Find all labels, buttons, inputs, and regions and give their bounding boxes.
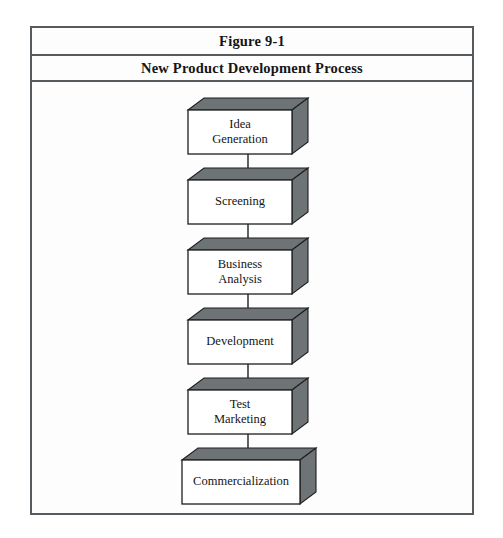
- box-top-face: [188, 378, 308, 390]
- flowchart-canvas: Idea Generation Screening: [32, 82, 472, 513]
- box-front-face: [188, 180, 292, 224]
- box-front-face: [188, 110, 292, 154]
- process-node-idea-generation[interactable]: Idea Generation: [184, 96, 310, 158]
- process-node-business-analysis[interactable]: Business Analysis: [184, 236, 310, 298]
- box-top-face: [188, 308, 308, 320]
- box-top-face: [188, 168, 308, 180]
- process-node-development[interactable]: Development: [184, 306, 310, 368]
- box-top-face: [182, 448, 316, 460]
- figure-subtitle-band: New Product Development Process: [32, 56, 472, 82]
- figure-number-label: Figure 9-1: [219, 33, 285, 50]
- box-top-face: [188, 98, 308, 110]
- box-front-face: [188, 250, 292, 294]
- figure-frame: Figure 9-1 New Product Development Proce…: [30, 26, 474, 515]
- box-front-face: [188, 320, 292, 364]
- process-node-test-marketing[interactable]: Test Marketing: [184, 376, 310, 438]
- box-top-face: [188, 238, 308, 250]
- process-node-screening[interactable]: Screening: [184, 166, 310, 228]
- figure-number-band: Figure 9-1: [32, 28, 472, 56]
- process-node-commercialization[interactable]: Commercialization: [178, 446, 318, 508]
- box-front-face: [182, 460, 300, 504]
- box-front-face: [188, 390, 292, 434]
- figure-subtitle-label: New Product Development Process: [141, 60, 363, 77]
